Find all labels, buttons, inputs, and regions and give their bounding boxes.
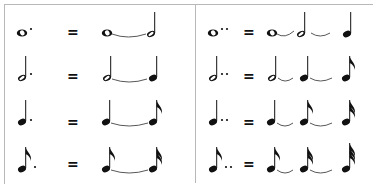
whole-note-icon [267,29,277,36]
eighth-note-icon [148,100,162,126]
tie-icon [278,78,293,81]
dot-icon [34,166,36,168]
row-dotted-whole [17,12,156,38]
eighth-note-icon [299,100,313,126]
eighth-note-icon [341,56,355,82]
dot-icon [30,28,32,30]
dot-icon [221,73,223,75]
quarter-note-icon [266,100,276,126]
whole-note-icon [17,29,27,36]
eighth-note-icon [208,147,222,173]
dot-icon [30,119,32,121]
eighth-note-icon [101,147,115,173]
half-note-icon [208,56,218,82]
quarter-note-icon [208,100,218,126]
row-double-dotted-eighth [208,143,355,173]
dot-icon [221,119,223,121]
row-double-dotted-half [208,56,355,82]
quarter-note-icon [148,56,158,82]
quarter-note-icon [17,100,27,126]
dot-icon [221,28,223,30]
tie-icon [277,123,293,126]
quarter-note-icon [299,56,309,82]
tie-icon [277,170,293,173]
tie-icon [310,78,332,81]
tie-icon [111,123,148,126]
half-note-icon [267,56,277,82]
half-note-icon [17,56,27,82]
sixteenth-note-icon [148,147,162,173]
tie-icon [310,170,332,173]
dot-icon [230,166,232,168]
row-dotted-quarter [17,100,162,126]
tie-icon [310,123,332,126]
eighth-note-icon [266,147,280,173]
sixteenth-note-icon [299,147,313,173]
half-note-icon [296,12,306,38]
eighth-note-icon [17,147,31,173]
tie-icon [277,31,294,36]
half-note-icon [102,56,112,82]
row-dotted-half [17,56,158,82]
row-dotted-eighth [17,147,162,173]
whole-note-icon [102,29,112,36]
row-double-dotted-whole [208,12,352,38]
tie-icon [311,33,330,36]
quarter-note-icon [101,100,111,126]
tie-icon [111,170,148,173]
tie-icon [112,79,147,82]
half-note-icon [146,12,156,38]
dot-icon [226,73,228,75]
thirty-second-note-icon [341,143,355,173]
dot-icon [30,73,32,75]
row-double-dotted-quarter [208,100,355,126]
dot-icon [225,166,227,168]
quarter-note-icon [342,12,352,38]
whole-note-icon [208,29,218,36]
tie-icon [112,34,146,37]
sixteenth-note-icon [341,100,355,126]
dot-icon [226,28,228,30]
dot-icon [226,119,228,121]
